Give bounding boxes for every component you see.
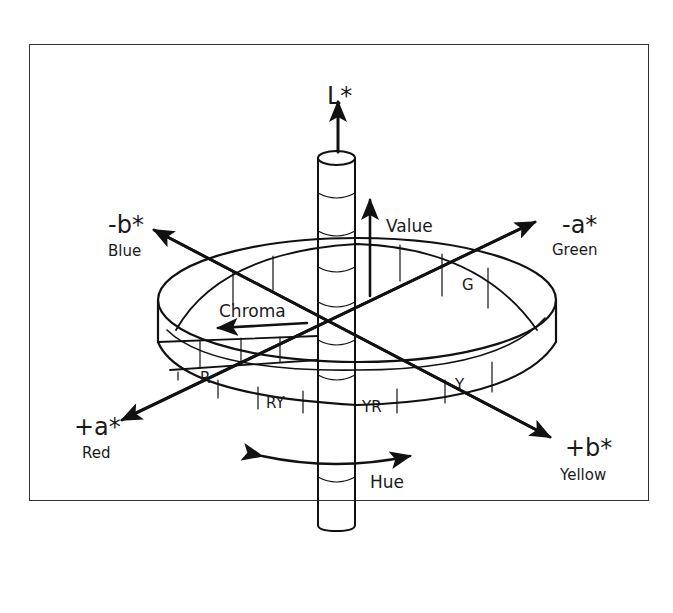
plus-a-axis-label: +a* xyxy=(74,415,121,439)
hue-segment-r: R xyxy=(200,371,210,386)
hue-label: Hue xyxy=(370,474,404,491)
chroma-label: Chroma xyxy=(219,303,286,320)
minus-a-axis-label: -a* xyxy=(562,213,597,237)
lightness-column-bottom xyxy=(318,370,355,531)
hue-segment-yr: YR xyxy=(362,400,382,415)
blue-label: Blue xyxy=(108,244,141,259)
plus-b-axis-label: +b* xyxy=(565,436,612,460)
hue-segment-ry: RY xyxy=(266,396,285,411)
yellow-label: Yellow xyxy=(560,468,606,483)
l-axis-label: L* xyxy=(327,84,352,108)
value-label: Value xyxy=(386,218,433,235)
red-label: Red xyxy=(82,446,111,461)
chroma-arrow xyxy=(218,323,307,328)
hue-segment-y: Y xyxy=(455,378,464,393)
hue-arrow xyxy=(262,456,410,464)
lightness-column xyxy=(318,151,355,412)
hue-segment-g: G xyxy=(462,278,474,293)
green-label: Green xyxy=(552,243,597,258)
minus-b-axis-label: -b* xyxy=(108,213,144,237)
